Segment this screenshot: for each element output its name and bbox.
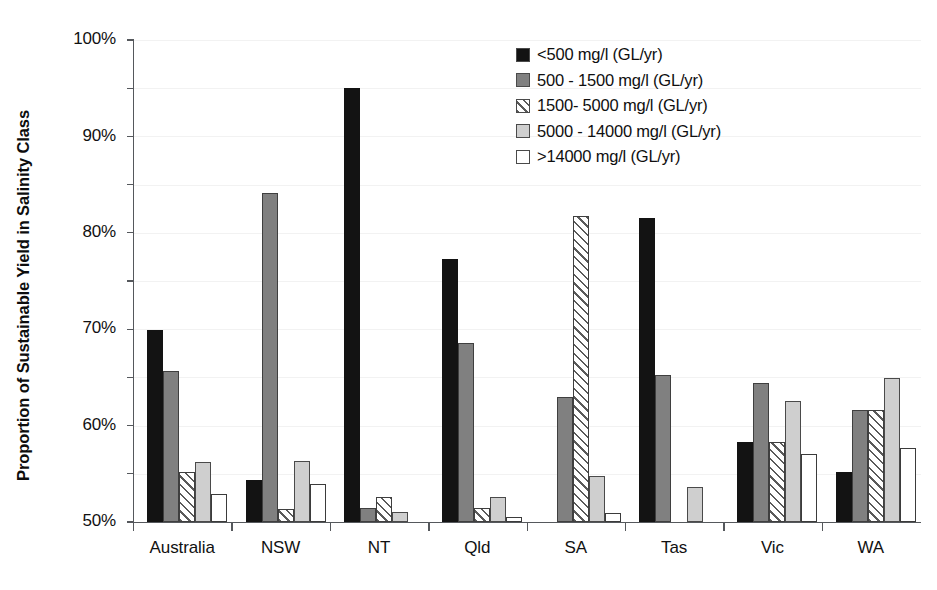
legend-swatch-icon bbox=[516, 124, 530, 138]
y-axis-tick: 70% bbox=[127, 184, 134, 185]
y-axis-tick: 90% bbox=[127, 88, 134, 89]
legend-item: 5000 - 14000 mg/l (GL/yr) bbox=[516, 119, 721, 145]
chart-legend: <500 mg/l (GL/yr)500 - 1500 mg/l (GL/yr)… bbox=[516, 42, 721, 170]
y-axis-tick-label: 50% bbox=[83, 511, 116, 531]
x-axis-label: Tas bbox=[661, 538, 687, 558]
legend-item: >14000 mg/l (GL/yr) bbox=[516, 144, 721, 170]
y-axis-tick: 10% bbox=[127, 473, 134, 474]
bar bbox=[801, 454, 817, 522]
bar bbox=[490, 497, 506, 522]
legend-swatch-icon bbox=[516, 48, 530, 62]
y-axis-tick-label: 70% bbox=[83, 318, 116, 338]
bar bbox=[376, 497, 392, 522]
bar-group bbox=[442, 40, 522, 522]
bar bbox=[360, 508, 376, 522]
bar-group bbox=[246, 40, 326, 522]
x-axis-label: Vic bbox=[761, 538, 784, 558]
bar bbox=[557, 397, 573, 522]
bar bbox=[179, 472, 195, 522]
bar bbox=[344, 88, 360, 522]
x-axis-label: NSW bbox=[261, 538, 300, 558]
x-axis-label: SA bbox=[564, 538, 586, 558]
bar bbox=[442, 259, 458, 522]
legend-swatch-icon bbox=[516, 99, 530, 113]
legend-label: >14000 mg/l (GL/yr) bbox=[537, 147, 680, 166]
y-axis-tick: 30% bbox=[127, 377, 134, 378]
legend-item: 1500- 5000 mg/l (GL/yr) bbox=[516, 93, 721, 119]
x-axis-label: WA bbox=[858, 538, 885, 558]
bar bbox=[639, 218, 655, 522]
x-axis-tick bbox=[231, 522, 232, 531]
bar bbox=[310, 484, 326, 522]
legend-swatch-icon bbox=[516, 73, 530, 87]
bar bbox=[785, 401, 801, 522]
bar-group bbox=[344, 40, 424, 522]
y-axis-title: Proportion of Sustainable Yield in Salin… bbox=[4, 0, 42, 590]
bar bbox=[506, 517, 522, 522]
bar bbox=[246, 480, 262, 522]
x-axis-label: Australia bbox=[150, 538, 215, 558]
bar bbox=[589, 476, 605, 522]
y-axis-tick-label: 60% bbox=[83, 415, 116, 435]
bar-group bbox=[836, 40, 916, 522]
y-axis-tick: 60% bbox=[127, 232, 134, 233]
x-axis-tick bbox=[527, 522, 528, 531]
y-axis-tick: 100% bbox=[127, 39, 134, 40]
bar bbox=[262, 193, 278, 522]
legend-label: 1500- 5000 mg/l (GL/yr) bbox=[537, 96, 708, 115]
bar bbox=[278, 509, 294, 522]
bar-group bbox=[737, 40, 817, 522]
bar bbox=[900, 448, 916, 522]
bar bbox=[687, 487, 703, 522]
x-axis-tick bbox=[428, 522, 429, 531]
bar bbox=[392, 512, 408, 522]
bar bbox=[605, 513, 621, 522]
y-axis-tick: 50% bbox=[127, 280, 134, 281]
x-axis-tick bbox=[330, 522, 331, 531]
legend-item: <500 mg/l (GL/yr) bbox=[516, 42, 721, 68]
bar bbox=[573, 216, 589, 522]
y-axis-tick: 80% bbox=[127, 136, 134, 137]
legend-label: 5000 - 14000 mg/l (GL/yr) bbox=[537, 122, 721, 141]
bar bbox=[852, 410, 868, 522]
bar-group bbox=[147, 40, 227, 522]
x-axis-tick bbox=[625, 522, 626, 531]
y-axis-tick: 40% bbox=[127, 329, 134, 330]
chart-page: Proportion of Sustainable Yield in Salin… bbox=[0, 0, 937, 590]
y-axis-tick-label: 90% bbox=[83, 126, 116, 146]
legend-swatch-icon bbox=[516, 150, 530, 164]
bar bbox=[769, 442, 785, 522]
x-axis-label: Qld bbox=[464, 538, 490, 558]
bar bbox=[458, 343, 474, 522]
y-axis-tick-label: 80% bbox=[83, 222, 116, 242]
y-axis-title-text: Proportion of Sustainable Yield in Salin… bbox=[14, 109, 33, 480]
legend-label: 500 - 1500 mg/l (GL/yr) bbox=[537, 71, 703, 90]
bar bbox=[211, 494, 227, 522]
y-axis-tick: 20% bbox=[127, 425, 134, 426]
bar bbox=[884, 378, 900, 522]
bar bbox=[836, 472, 852, 522]
x-axis-label: NT bbox=[368, 538, 390, 558]
bar bbox=[737, 442, 753, 522]
x-axis-tick bbox=[723, 522, 724, 531]
bar bbox=[474, 508, 490, 522]
bar bbox=[147, 330, 163, 522]
bar bbox=[655, 375, 671, 522]
x-axis-tick bbox=[133, 522, 134, 531]
bar bbox=[163, 371, 179, 522]
y-axis-tick-label: 100% bbox=[73, 29, 116, 49]
bar bbox=[195, 462, 211, 522]
bar bbox=[294, 461, 310, 522]
legend-item: 500 - 1500 mg/l (GL/yr) bbox=[516, 68, 721, 94]
x-axis-tick bbox=[822, 522, 823, 531]
bar bbox=[868, 410, 884, 522]
bar bbox=[753, 383, 769, 522]
legend-label: <500 mg/l (GL/yr) bbox=[537, 45, 662, 64]
